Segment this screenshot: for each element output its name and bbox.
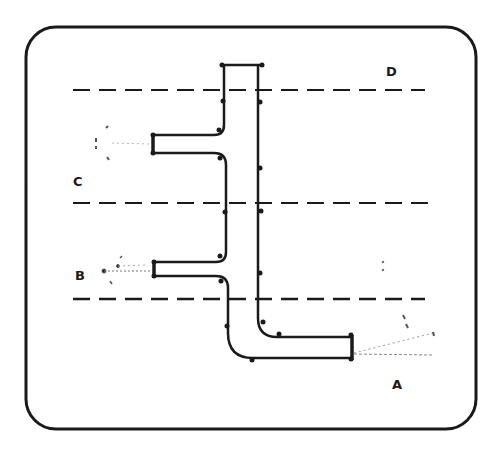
zone-label-d: D xyxy=(386,64,397,79)
pipe-right-wall xyxy=(258,65,352,337)
zone-label-a: A xyxy=(392,377,402,392)
diagram-frame xyxy=(26,27,476,429)
lower-branch-spray xyxy=(102,256,150,284)
zone-label-b: B xyxy=(75,268,85,283)
pipe-left-wall-middle xyxy=(153,153,226,262)
pipe-diagram xyxy=(0,0,503,451)
pipe-left-wall-bottom xyxy=(154,276,352,358)
zone-label-c: C xyxy=(73,174,83,189)
pipe-left-wall-top xyxy=(153,65,224,135)
joint-markers xyxy=(151,63,354,363)
upper-branch-spray xyxy=(96,126,150,160)
elbow-spray xyxy=(354,261,434,355)
